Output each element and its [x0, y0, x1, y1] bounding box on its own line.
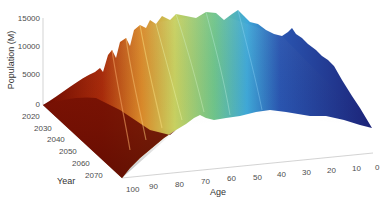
surface-chart: 15000 10000 5000 0 Population (M) 2020 2… [0, 0, 389, 205]
age-tick: 100 [126, 185, 140, 194]
year-tick: 2030 [34, 124, 52, 133]
year-tick: 2040 [47, 135, 65, 144]
year-tick: 2070 [85, 171, 103, 180]
population-surface [43, 10, 372, 178]
year-tick: 2060 [72, 159, 90, 168]
z-tick: 10000 [18, 42, 41, 51]
age-tick: 30 [302, 168, 311, 177]
z-tick: 5000 [22, 70, 40, 79]
age-axis-ticks: 100 90 80 70 60 50 40 30 20 10 0 [126, 163, 380, 194]
z-axis-label: Population (M) [6, 31, 16, 90]
age-tick: 20 [327, 166, 336, 175]
year-axis-label: Year [57, 176, 75, 186]
age-tick: 60 [227, 174, 236, 183]
age-tick: 40 [277, 170, 286, 179]
age-axis-label: Age [210, 187, 226, 197]
z-tick: 0 [36, 100, 41, 109]
age-tick: 10 [352, 164, 361, 173]
year-tick: 2050 [59, 147, 77, 156]
age-tick: 80 [175, 180, 184, 189]
z-axis-ticks: 15000 10000 5000 0 [18, 14, 41, 109]
age-tick: 0 [375, 163, 380, 172]
age-tick: 50 [253, 173, 262, 182]
age-tick: 70 [201, 177, 210, 186]
year-tick: 2020 [22, 112, 40, 121]
age-tick: 90 [149, 182, 158, 191]
z-tick: 15000 [18, 14, 41, 23]
